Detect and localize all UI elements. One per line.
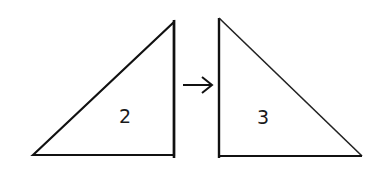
triangle-3-label: 3 xyxy=(257,106,269,128)
diagram-canvas: 2 3 xyxy=(0,0,388,173)
triangle-2 xyxy=(33,20,174,158)
triangle-3 xyxy=(219,18,362,158)
triangle-2-label: 2 xyxy=(119,105,131,127)
arrow-right-icon xyxy=(183,77,212,93)
